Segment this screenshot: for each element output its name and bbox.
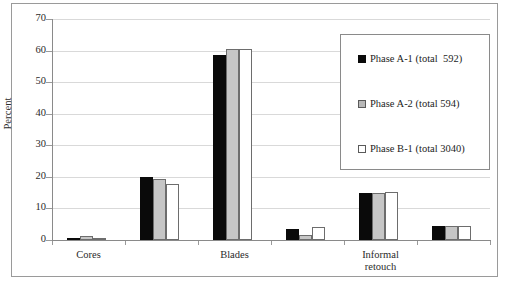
x-category-label: Blades (190, 249, 280, 261)
y-tick-mark (46, 82, 52, 83)
bar (213, 55, 226, 240)
bar (153, 179, 166, 240)
x-tick-mark (344, 241, 345, 245)
figure-canvas: 010203040506070 Percent CoresBladesInfor… (0, 0, 512, 284)
gridline (52, 208, 490, 209)
bar (239, 49, 252, 240)
y-tick-mark (46, 177, 52, 178)
bar (445, 226, 458, 240)
y-tick-label: 40 (12, 108, 46, 119)
bar (80, 236, 93, 240)
chart-legend: Phase A-1 (total 592)Phase A-2 (total 59… (340, 34, 490, 170)
bar (67, 238, 80, 240)
legend-item[interactable]: Phase A-2 (total 594) (358, 98, 460, 109)
y-axis-tick-labels: 010203040506070 (8, 0, 46, 284)
y-tick-mark (46, 51, 52, 52)
y-tick-label: 70 (12, 13, 46, 24)
gridline (52, 177, 490, 178)
x-category-label: Informal retouch (336, 249, 426, 273)
bar (312, 227, 325, 240)
y-tick-mark (46, 114, 52, 115)
bar (299, 235, 312, 240)
bar-group (213, 19, 252, 240)
x-tick-mark (198, 241, 199, 245)
y-tick-label: 10 (12, 202, 46, 213)
y-tick-label: 20 (12, 171, 46, 182)
bar (93, 238, 106, 240)
bar (359, 193, 372, 240)
y-tick-mark (46, 145, 52, 146)
bar (385, 192, 398, 240)
bar (286, 229, 299, 240)
legend-swatch-icon (358, 55, 366, 63)
x-tick-mark (271, 241, 272, 245)
bar (458, 226, 471, 240)
bar (226, 49, 239, 240)
bar (432, 226, 445, 240)
bar-group (286, 19, 325, 240)
gridline (52, 19, 490, 20)
y-tick-label: 30 (12, 139, 46, 150)
bar-group (67, 19, 106, 240)
legend-swatch-icon (358, 100, 366, 108)
bar (140, 177, 153, 240)
y-axis-line (52, 19, 53, 241)
x-tick-mark (125, 241, 126, 245)
y-tick-label: 60 (12, 45, 46, 56)
y-tick-mark (46, 208, 52, 209)
x-category-label: Cores (44, 249, 134, 261)
y-tick-mark (46, 19, 52, 20)
legend-label: Phase A-2 (total 594) (370, 98, 460, 109)
y-tick-label: 0 (12, 234, 46, 245)
legend-item[interactable]: Phase B-1 (total 3040) (358, 143, 465, 154)
x-tick-mark (52, 241, 53, 245)
x-tick-mark (417, 241, 418, 245)
bar-group (140, 19, 179, 240)
legend-label: Phase B-1 (total 3040) (370, 143, 465, 154)
legend-label: Phase A-1 (total 592) (370, 53, 462, 64)
y-axis-title: Percent (2, 79, 13, 149)
y-tick-label: 50 (12, 76, 46, 87)
bar (166, 184, 179, 240)
x-tick-mark (490, 241, 491, 245)
bar (372, 193, 385, 240)
legend-swatch-icon (358, 145, 366, 153)
y-tick-mark (46, 240, 52, 241)
legend-item[interactable]: Phase A-1 (total 592) (358, 53, 462, 64)
